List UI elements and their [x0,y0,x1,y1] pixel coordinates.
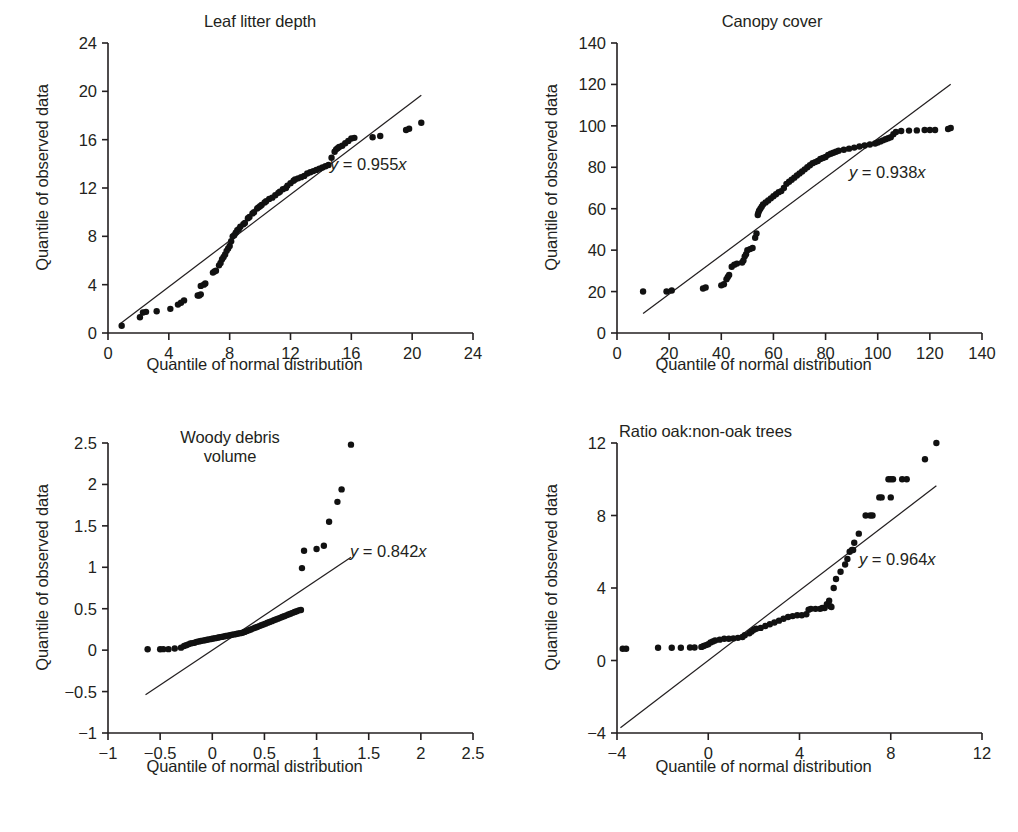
x-axis-label: Quantile of normal distribution [0,355,509,374]
y-axis-label: Quantile of observed data [33,13,52,343]
svg-text:24: 24 [79,34,97,52]
svg-text:20: 20 [588,283,606,301]
fit-equation-label: y = 0.842x [350,542,427,561]
svg-text:2: 2 [88,475,97,493]
svg-text:−4: −4 [587,724,606,742]
x-axis-label: Quantile of normal distribution [0,757,509,776]
y-axis-label: Quantile of observed data [33,413,52,743]
y-axis-label: Quantile of observed data [542,413,561,743]
svg-text:140: 140 [578,34,606,52]
svg-text:16: 16 [79,131,97,149]
svg-text:0: 0 [88,641,97,659]
x-axis-label: Quantile of normal distribution [509,355,1018,374]
svg-text:100: 100 [578,117,606,135]
svg-text:8: 8 [597,507,606,525]
panel-title: Canopy cover [677,12,867,31]
panel-canopy-cover: 020406080100120140020406080100120140 Qua… [509,0,1018,400]
svg-text:60: 60 [588,200,606,218]
figure-caption [0,817,1018,832]
svg-text:1: 1 [88,558,97,576]
panel-woody-debris-volume: −1−0.500.511.522.5−1−0.500.511.522.5 Qua… [0,400,509,800]
svg-text:0: 0 [597,324,606,342]
svg-text:12: 12 [79,179,97,197]
svg-text:0: 0 [88,324,97,342]
x-axis-label: Quantile of normal distribution [509,757,1018,776]
svg-text:−1: −1 [78,724,97,742]
qq-plot-figure: 0481216202404812162024 Quantile of obser… [0,0,1018,832]
fit-equation-label: y = 0.955x [330,155,407,174]
y-axis-label: Quantile of observed data [542,13,561,343]
svg-text:4: 4 [597,579,606,597]
svg-text:0.5: 0.5 [74,600,97,618]
svg-text:−0.5: −0.5 [64,683,97,701]
svg-text:4: 4 [88,276,97,294]
svg-text:40: 40 [588,241,606,259]
plot-area-ratio-oak-non-oak-trees: −404812−404812 [509,400,1018,800]
panel-title: Ratio oak:non-oak trees [619,422,879,441]
svg-text:12: 12 [588,434,606,452]
svg-text:0: 0 [597,652,606,670]
svg-text:80: 80 [588,158,606,176]
fit-equation-label: y = 0.964x [859,550,936,569]
svg-text:2.5: 2.5 [74,434,97,452]
svg-text:8: 8 [88,227,97,245]
fit-equation-label: y = 0.938x [849,163,926,182]
plot-area-leaf-litter-depth: 0481216202404812162024 [0,0,509,400]
panel-leaf-litter-depth: 0481216202404812162024 Quantile of obser… [0,0,509,400]
svg-text:1.5: 1.5 [74,517,97,535]
panel-ratio-oak-non-oak-trees: −404812−404812 Quantile of observed data… [509,400,1018,800]
panel-title: Woody debris volume [140,428,320,467]
panel-title: Leaf litter depth [155,12,365,31]
svg-text:120: 120 [578,75,606,93]
svg-text:20: 20 [79,82,97,100]
plot-area-canopy-cover: 020406080100120140020406080100120140 [509,0,1018,400]
